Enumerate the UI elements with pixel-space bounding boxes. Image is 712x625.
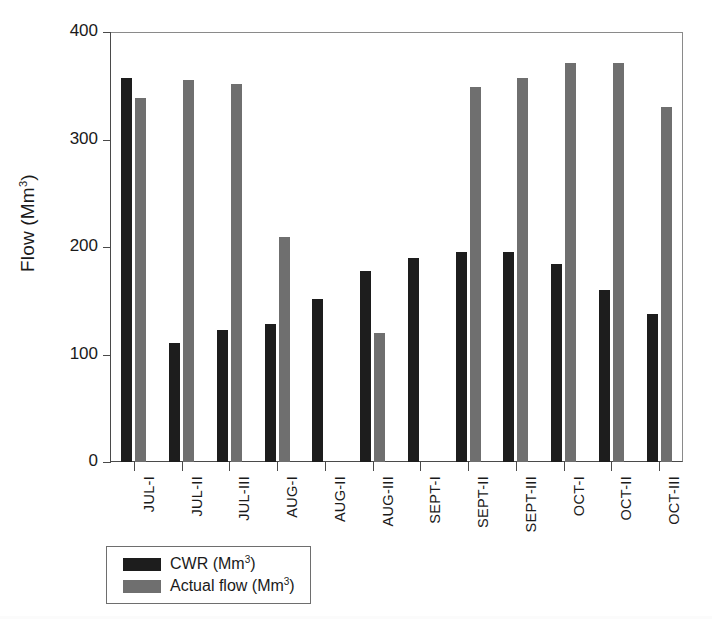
bar-actual-sept-iii	[517, 78, 528, 462]
x-axis-tick-mark	[611, 462, 612, 471]
legend-entry-actual-flow: Actual flow (Mm3)	[123, 576, 295, 596]
bar-cwr-jul-ii	[169, 343, 180, 462]
x-axis-tick-label: AUG-I	[284, 476, 300, 518]
y-axis-tick-label: 200	[42, 236, 98, 256]
y-axis-tick-label: 400	[42, 21, 98, 41]
bar-actual-aug-i	[279, 237, 290, 462]
x-axis-tick-label: OCT-II	[618, 476, 634, 521]
y-axis-tick-label: 100	[42, 344, 98, 364]
chart-legend: CWR (Mm3) Actual flow (Mm3)	[106, 546, 311, 604]
bar-cwr-sept-ii	[456, 252, 467, 462]
x-axis-tick-label: JUL-II	[189, 476, 205, 516]
scan-artifact	[0, 616, 712, 619]
bar-actual-jul-iii	[231, 84, 242, 462]
flow-bar-chart: Flow (Mm3) CWR (Mm3) Actual flow (Mm3) 0…	[0, 0, 712, 625]
x-axis-tick-mark	[325, 462, 326, 471]
legend-label-cwr-tail: )	[250, 556, 255, 573]
bar-cwr-oct-iii	[647, 314, 658, 462]
x-axis-tick-mark	[516, 462, 517, 471]
x-axis-tick-label: JUL-I	[141, 476, 157, 512]
bar-actual-jul-ii	[183, 80, 194, 462]
x-axis-tick-label: AUG-II	[332, 476, 348, 522]
x-axis-tick-label: JUL-III	[236, 476, 252, 521]
legend-swatch-actual-flow	[123, 580, 161, 593]
x-axis-tick-mark	[373, 462, 374, 471]
x-axis-tick-label: SEPT-I	[427, 476, 443, 524]
x-axis-tick-mark	[229, 462, 230, 471]
x-axis-tick-label: SEPT-III	[523, 476, 539, 532]
y-axis-tick-mark	[103, 32, 111, 33]
x-axis-tick-label: AUG-III	[380, 476, 396, 526]
y-axis-tick-mark	[103, 140, 111, 141]
bar-actual-sept-ii	[470, 87, 481, 462]
y-axis-tick-mark	[103, 247, 111, 248]
x-axis-tick-mark	[564, 462, 565, 471]
bar-cwr-aug-ii	[312, 299, 323, 462]
y-axis-tick-label: 0	[42, 451, 98, 471]
y-axis-tick-label: 300	[42, 129, 98, 149]
bar-cwr-aug-iii	[360, 271, 371, 462]
legend-swatch-cwr	[123, 558, 161, 571]
y-axis-title-text: Flow (Mm	[17, 187, 38, 272]
bar-cwr-jul-i	[121, 78, 132, 462]
x-axis-tick-mark	[134, 462, 135, 471]
x-axis-tick-mark	[277, 462, 278, 471]
legend-label-actual-tail: )	[289, 578, 294, 595]
x-axis-tick-label: SEPT-II	[475, 476, 491, 528]
legend-label-actual-flow: Actual flow (Mm3)	[170, 576, 295, 595]
bar-actual-aug-iii	[374, 333, 385, 462]
y-axis-tick-mark	[103, 462, 111, 463]
bar-cwr-oct-i	[551, 264, 562, 462]
legend-label-cwr-base: CWR (Mm	[170, 556, 245, 573]
x-axis-tick-mark	[659, 462, 660, 471]
bar-cwr-sept-i	[408, 258, 419, 462]
bar-cwr-oct-ii	[599, 290, 610, 462]
x-axis-tick-label: OCT-I	[571, 476, 587, 516]
x-axis-tick-mark	[468, 462, 469, 471]
y-axis-title: Flow (Mm3)	[17, 133, 39, 313]
y-axis-tick-mark	[103, 355, 111, 356]
y-axis-title-tail: )	[17, 174, 38, 181]
bar-actual-oct-ii	[613, 63, 624, 462]
bar-cwr-sept-iii	[503, 252, 514, 462]
legend-label-cwr: CWR (Mm3)	[170, 554, 256, 573]
bars-layer	[110, 32, 683, 462]
bar-cwr-aug-i	[265, 324, 276, 462]
legend-label-actual-base: Actual flow (Mm	[170, 578, 284, 595]
x-axis-tick-mark	[182, 462, 183, 471]
bar-cwr-jul-iii	[217, 330, 228, 462]
bar-actual-oct-iii	[661, 107, 672, 462]
bar-actual-oct-i	[565, 63, 576, 462]
x-axis-tick-label: OCT-III	[666, 476, 682, 525]
y-axis-title-exponent: 3	[17, 181, 29, 187]
legend-entry-cwr: CWR (Mm3)	[123, 554, 256, 574]
bar-actual-jul-i	[135, 98, 146, 462]
x-axis-tick-mark	[420, 462, 421, 471]
